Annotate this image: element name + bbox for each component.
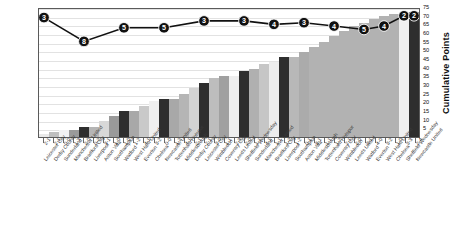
line-series: 3855334345422: [39, 9, 419, 137]
y-axis-tick-label: 75: [423, 5, 429, 11]
x-axis-label-group: 3-1Watford: [360, 143, 370, 247]
x-axis-label-group: 0-1Aston Villa: [299, 143, 309, 247]
x-axis-label-group: 3-1Middlesbrough: [309, 143, 319, 247]
y-axis-tick-label: 70: [423, 14, 429, 20]
x-axis-label-group: 1-0Southampton: [108, 143, 118, 247]
chart-root: 3855334345422 51015202530354045505560657…: [0, 0, 470, 247]
x-axis-label-group: 1-2Liverpool: [279, 143, 289, 247]
y-axis-tick-label: 20: [423, 100, 429, 106]
x-axis-label-group: 0-0Newcastle United: [159, 143, 169, 247]
x-axis-label-group: 3-0Wimbledon: [209, 143, 219, 247]
y-axis-tick-label: 60: [423, 31, 429, 37]
x-axis-label-group: 2-0Leeds United: [349, 143, 359, 247]
y-axis-tick-label: 55: [423, 40, 429, 46]
x-axis-labels: 2-1Leicester City2-1Derby County0-0Sunde…: [38, 143, 420, 247]
y-axis-tick-label: 25: [423, 92, 429, 98]
x-axis-label-group: 4-0Everton: [370, 143, 380, 247]
line-marker-label: 2: [402, 12, 406, 20]
line-marker-label: 8: [82, 38, 86, 46]
y-axis-title: Cumulative Points: [438, 8, 454, 138]
y-axis-title-label: Cumulative Points: [441, 32, 451, 114]
y-axis-tick-label: 40: [423, 66, 429, 72]
y-axis-tick-label: 45: [423, 57, 429, 63]
x-axis-label-group: 2-1Derby County: [48, 143, 58, 247]
line-marker-label: 5: [162, 24, 166, 32]
x-axis-label-group: 2-1Leicester City: [38, 143, 48, 247]
x-axis-label-group: 1-2Tottenham Hotspur: [169, 143, 179, 247]
y-axis-tick-label: 15: [423, 109, 429, 115]
line-marker-label: 3: [242, 18, 246, 26]
x-axis-label-group: 3-1Aston Villa: [98, 143, 108, 247]
x-axis-label-group: 1-2West Ham United: [128, 143, 138, 247]
x-axis-label-group: 1-2Southampton: [289, 143, 299, 247]
y-axis-tick-label: 35: [423, 74, 429, 80]
x-axis-label-group: 2-3Leeds United: [229, 143, 239, 247]
x-axis-label-group: 2-4Newcastle United: [410, 143, 420, 247]
x-axis-label-group: 1-2Coventry City: [329, 143, 339, 247]
x-axis-label-group: 1-1Bradford City: [269, 143, 279, 247]
line-marker-label: 3: [202, 18, 206, 26]
x-axis-label-group: 3-2West Ham United: [380, 143, 390, 247]
line-marker-label: 5: [362, 26, 366, 34]
y-axis-tick-label: 50: [423, 48, 429, 54]
line-marker-label: 4: [332, 23, 336, 31]
x-axis-label-group: 4-1Manchester United: [259, 143, 269, 247]
x-axis-label-group: 4-1Everton: [138, 143, 148, 247]
line-marker-label: 3: [302, 19, 306, 27]
x-axis-label-group: 2-1Wimbledon: [339, 143, 349, 247]
x-axis-label-group: 2-1Leicester City: [199, 143, 209, 247]
x-axis-label-group: 2-1Derby County: [189, 143, 199, 247]
line-marker-label: 4: [272, 21, 276, 29]
x-axis-label-group: 1-0Chelsea: [390, 143, 400, 247]
y-axis-tick-label: 65: [423, 22, 429, 28]
x-axis-label-group: 1-1Sunderland: [249, 143, 259, 247]
x-axis-label-group: 3-3Sheffield Wednesday: [400, 143, 410, 247]
line-marker-label: 2: [412, 12, 416, 20]
y-axis-tick-label: 10: [423, 118, 429, 124]
x-axis-label-group: 2-0Sheffield Wednesday: [239, 143, 249, 247]
line-marker-label: 5: [122, 24, 126, 32]
x-axis-label-group: 1-1Tottenham Hotspur: [319, 143, 329, 247]
x-axis-label-group: 0-0Sunderland: [58, 143, 68, 247]
x-axis-label-group: 1-3Manchester United: [68, 143, 78, 247]
x-axis-label-group: 0-2Liverpool: [88, 143, 98, 247]
x-axis-label-group: 2-0Bradford City: [78, 143, 88, 247]
plot-area: 3855334345422: [38, 8, 420, 138]
y-axis-tick-label: 30: [423, 83, 429, 89]
line-marker-label: 3: [42, 14, 46, 22]
x-axis-label-group: 4-1Middlesbrough: [179, 143, 189, 247]
x-axis-label-group: 3-2Chelsea: [149, 143, 159, 247]
x-axis-label-group: 1-0Watford: [118, 143, 128, 247]
x-axis-label-group: 1-1Coventry City: [219, 143, 229, 247]
line-marker-label: 4: [382, 23, 386, 31]
